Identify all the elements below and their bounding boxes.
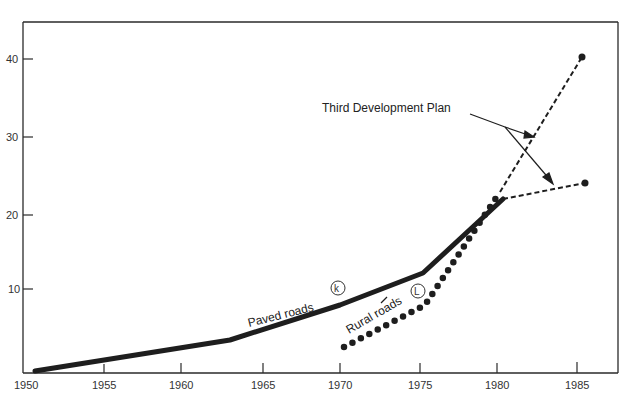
svg-text:L: L <box>414 286 420 297</box>
x-tick-1955: 1955 <box>92 379 116 391</box>
projection-upper-endpoint <box>579 54 586 61</box>
circled-mark-k: k <box>331 281 345 295</box>
x-tick-1970: 1970 <box>328 379 352 391</box>
arrow-icon <box>470 114 553 184</box>
y-tick-30: 30 <box>6 131 18 143</box>
x-tick-1950: 1950 <box>14 379 38 391</box>
x-tick-1980: 1980 <box>485 379 509 391</box>
projection-upper <box>500 57 582 192</box>
x-tick-1960: 1960 <box>169 379 193 391</box>
projection-lower <box>503 183 585 199</box>
y-tick-20: 20 <box>6 209 18 221</box>
svg-text:k: k <box>334 283 340 294</box>
chart: 40 30 20 10 1950 1955 1960 1965 1970 197… <box>0 0 636 408</box>
x-tick-1965: 1965 <box>251 379 275 391</box>
x-tick-1985: 1985 <box>565 379 589 391</box>
plot-frame <box>23 22 618 373</box>
circled-mark-l: L <box>411 284 425 298</box>
x-axis <box>104 362 577 373</box>
projection-lower-endpoint <box>582 180 589 187</box>
y-tick-40: 40 <box>6 53 18 65</box>
series-paved-roads <box>35 199 503 371</box>
x-tick-1975: 1975 <box>408 379 432 391</box>
y-tick-10: 10 <box>8 283 20 295</box>
y-axis <box>23 59 33 289</box>
label-third-development-plan: Third Development Plan <box>322 101 451 115</box>
